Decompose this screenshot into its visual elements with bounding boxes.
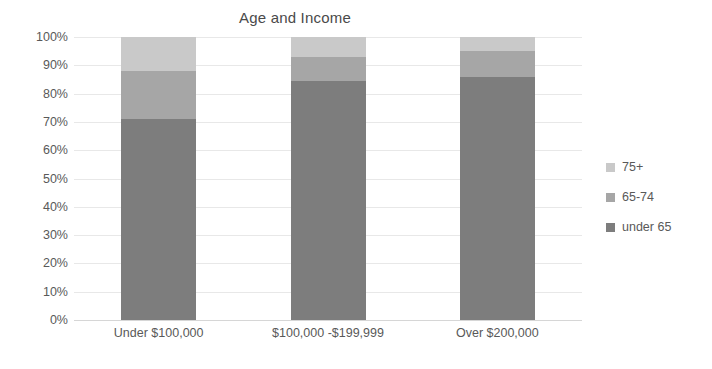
bar-segment-65-74[interactable]	[291, 57, 366, 81]
bar-segment-under-65[interactable]	[460, 77, 535, 320]
bar-segment-65-74[interactable]	[121, 71, 196, 119]
y-axis-tick-label: 40%	[6, 200, 68, 214]
bar-group[interactable]	[291, 37, 366, 320]
x-axis-tick-label: Over $200,000	[412, 326, 582, 340]
chart-title: Age and Income	[0, 9, 590, 26]
y-axis-tick-label: 20%	[6, 256, 68, 270]
y-axis-tick-label: 80%	[6, 87, 68, 101]
chart-container: Age and Income 100%90%80%70%60%50%40%30%…	[0, 0, 712, 369]
y-axis-tick-label: 50%	[6, 172, 68, 186]
bar-segment-under-65[interactable]	[121, 119, 196, 320]
legend-item[interactable]: 65-74	[606, 182, 710, 212]
x-axis-tick-label: $100,000 -$199,999	[243, 326, 413, 340]
legend-item[interactable]: under 65	[606, 212, 710, 242]
bar-stack	[291, 37, 366, 320]
legend-swatch-icon	[606, 163, 615, 172]
legend-item-label: under 65	[622, 220, 671, 234]
y-axis-tick-label: 100%	[6, 30, 68, 44]
x-axis-tick-label: Under $100,000	[74, 326, 244, 340]
y-axis: 100%90%80%70%60%50%40%30%20%10%0%	[0, 37, 68, 320]
bar-stack	[121, 37, 196, 320]
legend-swatch-icon	[606, 193, 615, 202]
bar-segment-under-65[interactable]	[291, 81, 366, 320]
y-axis-tick-label: 60%	[6, 143, 68, 157]
legend-item-label: 75+	[622, 160, 643, 174]
legend-item-label: 65-74	[622, 190, 654, 204]
bar-segment-75-[interactable]	[460, 37, 535, 51]
y-axis-tick-label: 90%	[6, 58, 68, 72]
legend-item[interactable]: 75+	[606, 152, 710, 182]
plot-area	[74, 37, 582, 320]
bar-stack	[460, 37, 535, 320]
y-axis-tick-label: 0%	[6, 313, 68, 327]
chart-legend: 75+65-74under 65	[606, 152, 710, 242]
bar-segment-75-[interactable]	[291, 37, 366, 57]
x-axis: Under $100,000$100,000 -$199,999Over $20…	[74, 326, 582, 348]
bar-segment-75-[interactable]	[121, 37, 196, 71]
y-axis-tick-label: 10%	[6, 285, 68, 299]
bar-group[interactable]	[121, 37, 196, 320]
legend-swatch-icon	[606, 223, 615, 232]
y-axis-tick-label: 70%	[6, 115, 68, 129]
y-axis-tick-label: 30%	[6, 228, 68, 242]
bar-group[interactable]	[460, 37, 535, 320]
x-axis-baseline	[74, 320, 582, 321]
bar-segment-65-74[interactable]	[460, 51, 535, 76]
